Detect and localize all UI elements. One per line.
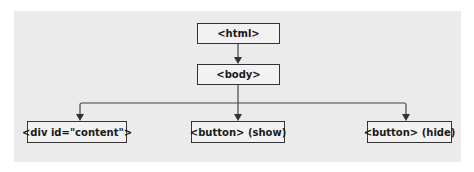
arrowhead-icon xyxy=(76,114,84,121)
node-html: <html> xyxy=(197,23,280,44)
arrowhead-icon xyxy=(234,57,242,64)
edge-branch-bar xyxy=(80,103,406,114)
node-div-content: <div id="content"> xyxy=(27,121,127,143)
arrowhead-icon xyxy=(402,114,410,121)
node-button-hide: <button> (hide) xyxy=(367,121,452,143)
node-button-show: <button> (show) xyxy=(191,121,285,143)
arrowhead-icon xyxy=(234,114,242,121)
node-body: <body> xyxy=(197,64,280,85)
